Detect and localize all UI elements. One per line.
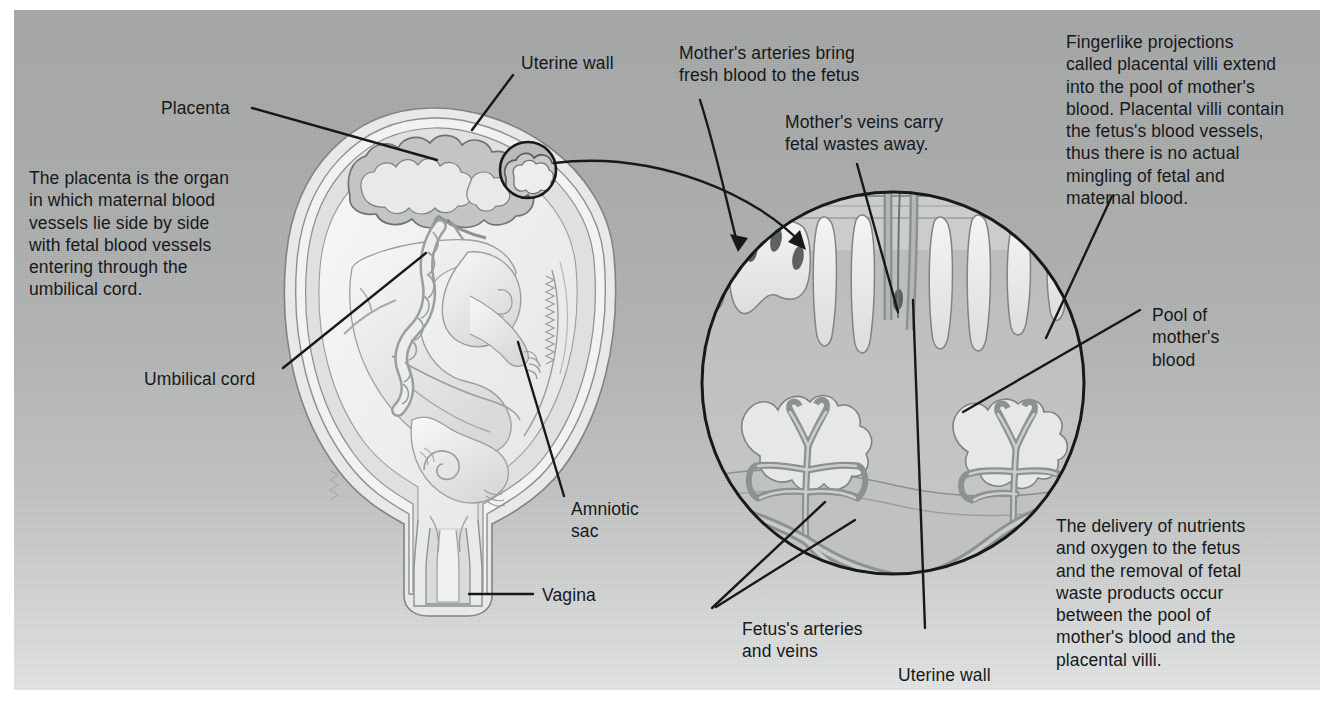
text-delivery-of-nutrients: The delivery of nutrients and oxygen to … [1056,515,1328,671]
text-mothers-veins: Mother's veins carry fetal wastes away. [785,111,985,156]
label-placenta: Placenta [161,97,230,119]
label-amniotic-sac: Amniotic sac [571,498,639,543]
label-uterine-wall-detail: Uterine wall [898,664,991,686]
figure-canvas: Placenta Uterine wall The placenta is th… [0,0,1334,713]
label-umbilical-cord: Umbilical cord [144,368,255,390]
text-placenta-description: The placenta is the organ in which mater… [29,167,291,301]
label-pool-of-mothers-blood: Pool of mother's blood [1152,304,1219,371]
label-fetuss-arteries-and-veins: Fetus's arteries and veins [742,618,863,663]
label-uterine-wall-left: Uterine wall [521,52,614,74]
text-mothers-arteries: Mother's arteries bring fresh blood to t… [679,42,929,87]
uterus-cross-section-group [284,108,615,616]
text-fingerlike-projections: Fingerlike projections called placental … [1066,31,1328,209]
label-vagina: Vagina [542,584,596,606]
magnified-detail-group [698,188,1090,582]
